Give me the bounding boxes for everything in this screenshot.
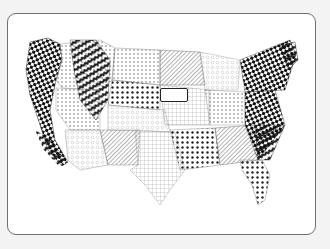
map-label-box: [160, 88, 188, 102]
us-map-illustration: [0, 0, 330, 249]
